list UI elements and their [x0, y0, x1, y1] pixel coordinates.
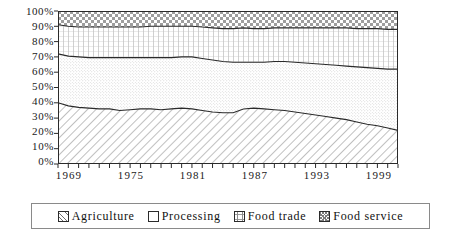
y-tick-label-90: 90%	[0, 21, 54, 32]
y-tick-label-10: 10%	[0, 141, 54, 152]
y-tick-label-40: 40%	[0, 96, 54, 107]
legend-label-processing: Processing	[162, 210, 221, 223]
x-tick-label-1981: 1981	[180, 169, 206, 182]
plot-area	[58, 11, 398, 164]
stacked-area-chart-figure: 100% 90% 80% 70% 60% 50% 40% 30% 20% 10%…	[0, 0, 463, 240]
vertical-grid-swatch-icon	[234, 211, 245, 222]
x-tick-label-1999: 1999	[366, 169, 392, 182]
diagonal-hatch-swatch-icon	[58, 211, 69, 222]
x-tick-label-1969: 1969	[56, 169, 82, 182]
legend-label-food-trade: Food trade	[248, 210, 307, 223]
legend-item-food-trade[interactable]: Food trade	[234, 210, 307, 223]
y-tick-label-70: 70%	[0, 51, 54, 62]
y-tick-label-20: 20%	[0, 126, 54, 137]
legend-item-processing[interactable]: Processing	[148, 210, 221, 223]
y-axis: 100% 90% 80% 70% 60% 50% 40% 30% 20% 10%…	[0, 0, 54, 176]
y-tick-label-50: 50%	[0, 81, 54, 92]
x-tick-label-1993: 1993	[304, 169, 330, 182]
x-tick-label-1975: 1975	[118, 169, 144, 182]
legend-item-agriculture[interactable]: Agriculture	[58, 210, 135, 223]
legend-label-food-service: Food service	[333, 210, 403, 223]
x-axis: 1969 1975 1981 1987 1993 1999	[58, 169, 403, 187]
y-tick-label-80: 80%	[0, 36, 54, 47]
y-tick-label-60: 60%	[0, 66, 54, 77]
y-tick-label-30: 30%	[0, 111, 54, 122]
y-tick-label-100: 100%	[0, 6, 54, 17]
legend-item-food-service[interactable]: Food service	[319, 210, 403, 223]
legend-label-agriculture: Agriculture	[72, 210, 135, 223]
fine-dots-swatch-icon	[148, 211, 159, 222]
x-tick-label-1987: 1987	[242, 169, 268, 182]
y-tick-label-0: 0%	[0, 156, 54, 167]
axis-ticks	[52, 10, 404, 176]
chart-legend: Agriculture Processing Food trade Food s…	[31, 203, 430, 229]
checker-crosshatch-swatch-icon	[319, 211, 330, 222]
